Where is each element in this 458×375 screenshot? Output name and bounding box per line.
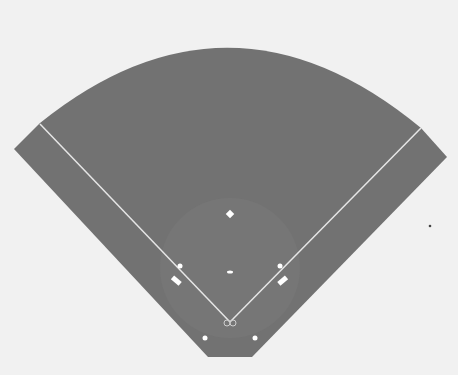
third-base [178,264,183,269]
pitchers-mound [227,271,233,274]
left-bottom-dot [203,336,208,341]
baseball-field-diagram [0,0,458,375]
stray-dot [429,225,432,228]
first-base [278,264,283,269]
right-bottom-dot [253,336,258,341]
